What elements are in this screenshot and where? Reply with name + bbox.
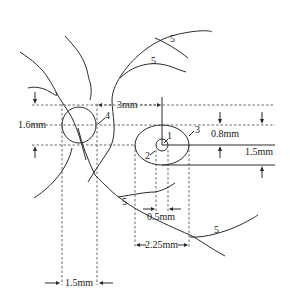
label-disc-horizontal: 1.5mm xyxy=(65,277,93,288)
vessel-left-upper xyxy=(20,52,86,160)
vessels xyxy=(20,31,258,256)
vessel-top-left xyxy=(65,36,91,100)
label-disc-to-fovea: 3mm xyxy=(117,99,138,110)
retina-diagram: 1.6mm 3mm 0.8mm 1.5mm 0.5mm 2.25mm 1.5mm… xyxy=(0,0,290,303)
labels: 1.6mm 3mm 0.8mm 1.5mm 0.5mm 2.25mm 1.5mm… xyxy=(18,33,273,288)
marker-5-b: 5 xyxy=(151,55,156,66)
marker-2: 2 xyxy=(145,150,150,161)
marker-3: 3 xyxy=(195,124,200,135)
marker-5-d: 5 xyxy=(214,224,219,235)
label-macula-vertical: 1.5mm xyxy=(245,146,273,157)
label-fovea-width: 0.5mm xyxy=(147,211,175,222)
arrows xyxy=(33,92,264,285)
label-macula-upper: 0.8mm xyxy=(211,128,239,139)
vessel-upper-right xyxy=(88,31,212,182)
vessel-left-branch xyxy=(28,87,57,95)
label-disc-vertical: 1.6mm xyxy=(18,119,46,130)
vessel-lower-right xyxy=(190,215,258,237)
vessel-lower-left xyxy=(34,148,72,198)
marker-4: 4 xyxy=(105,110,110,121)
label-macula-width: 2.25mm xyxy=(145,239,178,250)
vessel-lower-branch xyxy=(118,183,175,197)
marker-5-a: 5 xyxy=(170,33,175,44)
marker-1: 1 xyxy=(167,130,172,141)
marker-5-c: 5 xyxy=(122,196,127,207)
